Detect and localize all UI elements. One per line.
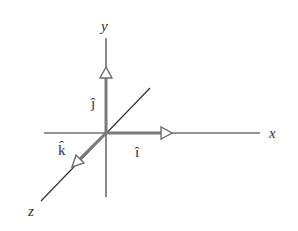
i-hat-label: î	[134, 144, 140, 160]
j-hat-label: ĵ	[90, 95, 96, 111]
arrowhead-i-icon	[161, 127, 172, 139]
coordinate-diagram: y x z ĵ î k̂	[0, 0, 298, 231]
k-hat-label: k̂	[58, 141, 66, 158]
x-axis-label: x	[268, 125, 276, 141]
arrowhead-j-icon	[100, 67, 112, 78]
unit-vector-i	[106, 127, 172, 139]
unit-vector-k	[72, 133, 106, 167]
y-axis-label: y	[99, 18, 108, 34]
unit-vector-j	[100, 67, 112, 133]
z-axis-label: z	[27, 203, 34, 219]
